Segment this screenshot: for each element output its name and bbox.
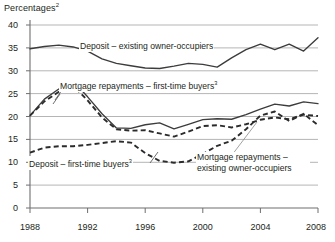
annotation-mortgage-ftb-text: Mortgage repayments – first-time buyers — [60, 81, 214, 91]
annotation-mortgage-repayments-existing-owner-occupiers: Mortgage repayments – existing owner-occ… — [196, 152, 310, 174]
annotation-deposit-ftb-text: Deposit – first-time buyers — [29, 159, 129, 169]
annotation-deposit-ftb-superscript: 3 — [129, 158, 132, 164]
chart-container: Percentages2 40 35 30 25 20 15 10 5 0 19… — [0, 0, 335, 242]
leader-line-deposit-ftb — [150, 152, 158, 163]
x-axis-ticks — [30, 208, 318, 213]
annotation-deposit-existing-text: Deposit – existing owner-occupiers — [80, 41, 213, 51]
y-axis-ticks — [26, 25, 30, 208]
annotation-mortgage-repayments-first-time-buyers: Mortgage repayments – first-time buyers3 — [59, 78, 218, 92]
series-lines — [30, 38, 318, 163]
annotation-mortgage-ftb-superscript: 3 — [214, 80, 217, 86]
annotation-mortgage-existing-text: Mortgage repayments – existing owner-occ… — [197, 152, 292, 173]
chart-plot-svg — [0, 0, 335, 242]
leader-line-mortgage-ftb-b — [53, 94, 60, 104]
annotation-deposit-existing-owner-occupiers: Deposit – existing owner-occupiers — [79, 41, 214, 52]
annotation-deposit-first-time-buyers: Deposit – first-time buyers3 — [28, 156, 133, 170]
